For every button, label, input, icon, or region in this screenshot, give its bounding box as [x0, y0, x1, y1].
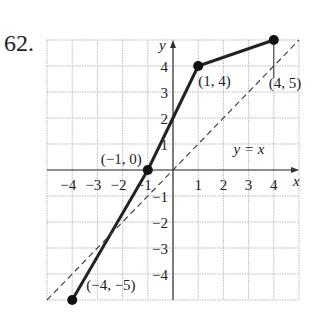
x-tick-label: 4 — [270, 177, 278, 193]
y-tick-label: 2 — [161, 111, 169, 127]
point-annotation: y = x — [232, 141, 265, 157]
piecewise-linear-chart: xy −4−3−2−11234−4−3−2−11234 (−4, −5)(−1,… — [0, 0, 316, 326]
y-tick-label: 3 — [161, 85, 169, 101]
data-point — [143, 165, 153, 175]
x-axis-label: x — [292, 173, 300, 189]
point-annotation: (−1, 0) — [101, 151, 142, 168]
data-point — [193, 61, 203, 71]
x-tick-label: −3 — [85, 177, 101, 193]
x-tick-label: −2 — [111, 177, 127, 193]
y-tick-label: 4 — [161, 59, 169, 75]
y-axis-arrow-icon — [170, 40, 176, 48]
y-axis-label: y — [157, 37, 166, 53]
x-tick-label: 1 — [194, 177, 202, 193]
tick-labels: −4−3−2−11234−4−3−2−11234 — [60, 59, 278, 283]
y-tick-label: −1 — [152, 189, 168, 205]
point-annotation: (−4, −5) — [86, 277, 135, 294]
x-tick-label: 3 — [245, 177, 253, 193]
x-tick-label: 2 — [220, 177, 228, 193]
data-point — [269, 35, 279, 45]
x-tick-label: −4 — [60, 177, 76, 193]
y-tick-label: −2 — [152, 215, 168, 231]
y-tick-label: −3 — [152, 241, 168, 257]
point-annotation: (1, 4) — [198, 73, 231, 90]
data-point — [67, 295, 77, 305]
y-tick-label: −4 — [152, 267, 168, 283]
